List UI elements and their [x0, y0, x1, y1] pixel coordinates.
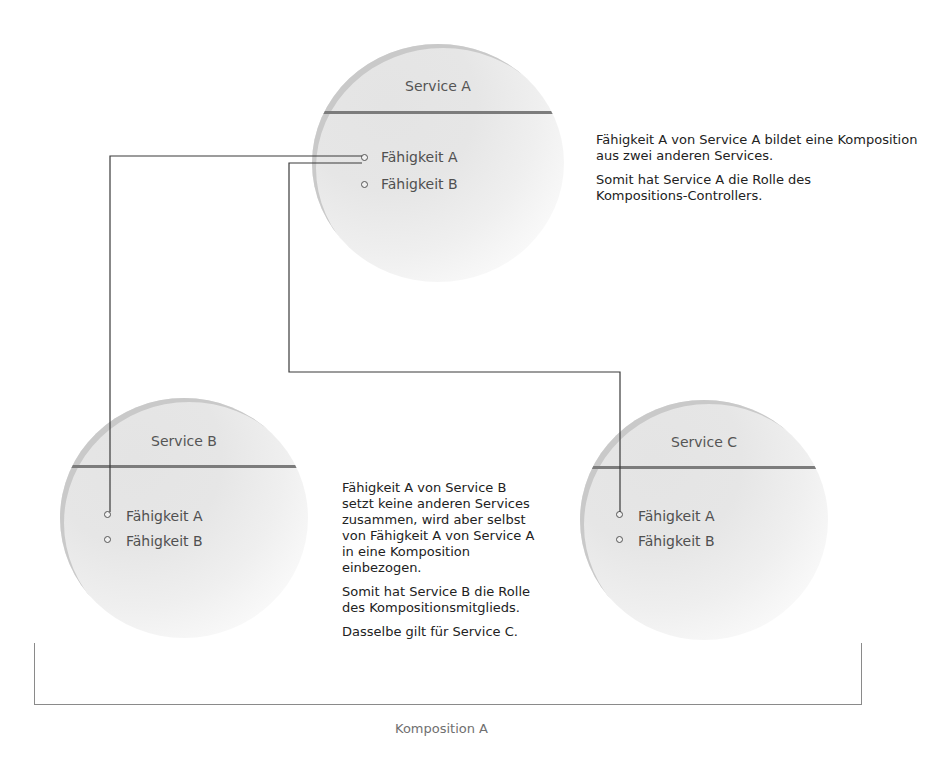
member-note: Fähigkeit A von Service B setzt keine an…	[342, 480, 542, 648]
member-note-p1: Fähigkeit A von Service B setzt keine an…	[342, 480, 542, 576]
composition-label: Komposition A	[395, 721, 488, 736]
controller-note: Fähigkeit A von Service A bildet eine Ko…	[596, 132, 925, 212]
wire-a-to-b	[110, 156, 362, 512]
wire-a-to-c	[289, 163, 620, 512]
member-note-p2: Somit hat Service B die Rolle des Kompos…	[342, 584, 542, 616]
controller-note-p2: Somit hat Service A die Rolle des Kompos…	[596, 172, 826, 204]
composition-bracket	[34, 643, 862, 705]
controller-note-p1: Fähigkeit A von Service A bildet eine Ko…	[596, 132, 925, 164]
member-note-p3: Dasselbe gilt für Service C.	[342, 624, 542, 640]
